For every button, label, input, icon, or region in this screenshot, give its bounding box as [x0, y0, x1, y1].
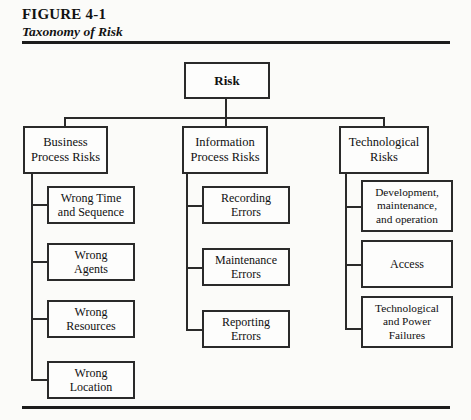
node-wrong-agents[interactable]: Wrong Agents: [47, 243, 135, 281]
node-reporting-errors[interactable]: Reporting Errors: [202, 310, 290, 348]
connector-spine-col3: [345, 174, 347, 330]
node-development-maintenance-operation[interactable]: Development, maintenance, and operation: [361, 180, 453, 232]
connector-stub-c1l2: [31, 261, 48, 263]
figure-title: Taxonomy of Risk: [22, 24, 123, 40]
node-maintenance-errors[interactable]: Maintenance Errors: [202, 248, 290, 286]
node-access[interactable]: Access: [361, 240, 453, 288]
node-wrong-location-label: Wrong Location: [70, 366, 113, 394]
node-technological-risks[interactable]: Technological Risks: [339, 126, 429, 174]
node-maintenance-errors-label: Maintenance Errors: [215, 253, 277, 281]
connector-stub-c2l2: [186, 267, 203, 269]
node-root-risk[interactable]: Risk: [184, 62, 270, 99]
connector-stub-c1l4: [31, 379, 48, 381]
connector-stub-c1l1: [31, 204, 48, 206]
node-reporting-errors-label: Reporting Errors: [222, 315, 270, 343]
node-business-process-risks-label: Business Process Risks: [31, 135, 100, 165]
connector-spine-col2: [186, 174, 188, 331]
node-technological-risks-label: Technological Risks: [349, 135, 420, 165]
connector-stub-c1l3: [31, 318, 48, 320]
node-wrong-resources-label: Wrong Resources: [66, 305, 115, 333]
node-recording-errors[interactable]: Recording Errors: [202, 186, 290, 224]
node-wrong-resources[interactable]: Wrong Resources: [47, 300, 135, 338]
footer-rule: [22, 406, 450, 409]
connector-stub-c2l1: [186, 205, 203, 207]
connector-distribution-bar: [64, 117, 384, 119]
node-information-process-risks-label: Information Process Risks: [190, 135, 259, 165]
header-rule: [22, 41, 450, 44]
node-wrong-location[interactable]: Wrong Location: [47, 361, 135, 399]
connector-stub-c3l3: [345, 328, 362, 330]
connector-root-stem: [225, 98, 227, 118]
node-access-label: Access: [390, 257, 424, 271]
figure-container: FIGURE 4-1 Taxonomy of Risk Risk Busines…: [0, 0, 471, 420]
node-wrong-time-and-sequence-label: Wrong Time and Sequence: [58, 191, 124, 219]
node-technological-and-power-failures-label: Technological and Power Failures: [375, 302, 439, 342]
node-root-risk-label: Risk: [214, 73, 239, 88]
connector-stub-c2l3: [186, 329, 203, 331]
connector-stub-c3l1: [345, 206, 362, 208]
node-recording-errors-label: Recording Errors: [221, 191, 271, 219]
node-business-process-risks[interactable]: Business Process Risks: [23, 126, 108, 174]
connector-drop-col1-top: [31, 174, 33, 182]
node-development-maintenance-operation-label: Development, maintenance, and operation: [375, 186, 439, 226]
node-wrong-agents-label: Wrong Agents: [74, 248, 108, 276]
node-information-process-risks[interactable]: Information Process Risks: [182, 126, 268, 174]
node-wrong-time-and-sequence[interactable]: Wrong Time and Sequence: [47, 186, 135, 224]
figure-label: FIGURE 4-1: [22, 6, 106, 23]
node-technological-and-power-failures[interactable]: Technological and Power Failures: [361, 296, 453, 348]
connector-stub-c3l2: [345, 264, 362, 266]
